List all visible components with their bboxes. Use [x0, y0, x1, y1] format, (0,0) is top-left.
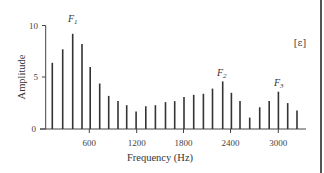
right-border: [320, 0, 322, 173]
harmonic-spectrum-chart: 10 5 0 Amplitude 600 1200 1800 2400 3000…: [0, 0, 324, 173]
formant-f1-label: F1: [67, 13, 78, 26]
harmonic-bars: [52, 34, 297, 129]
y-axis-title: Amplitude: [16, 54, 27, 99]
formant-f3-label: F3: [273, 77, 284, 90]
x-tick-label-1200: 1200: [128, 138, 147, 148]
x-axis-title: Frequency (Hz): [127, 152, 194, 164]
formant-f2-label: F2: [216, 67, 227, 80]
vowel-symbol-label: [ɛ]: [294, 37, 306, 48]
x-tick-label-3000: 3000: [269, 138, 288, 148]
x-tick-label-1800: 1800: [175, 138, 194, 148]
y-tick-label-10: 10: [29, 21, 39, 31]
y-tick-label-0: 0: [32, 124, 37, 134]
x-tick-label-600: 600: [83, 138, 97, 148]
y-tick-label-5: 5: [34, 72, 39, 82]
x-tick-label-2400: 2400: [222, 138, 241, 148]
